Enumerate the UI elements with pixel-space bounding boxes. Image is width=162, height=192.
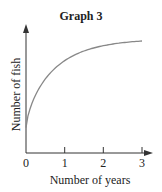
x-tick-label: 3 (136, 156, 148, 171)
data-line (26, 41, 142, 128)
x-tick-label: 2 (97, 156, 109, 171)
x-tick-label: 1 (59, 156, 71, 171)
x-tick-label: 0 (20, 156, 32, 171)
y-axis-label: Number of fish (9, 45, 24, 145)
x-axis-label: Number of years (30, 173, 150, 188)
y-axis-arrow-icon (23, 24, 29, 33)
